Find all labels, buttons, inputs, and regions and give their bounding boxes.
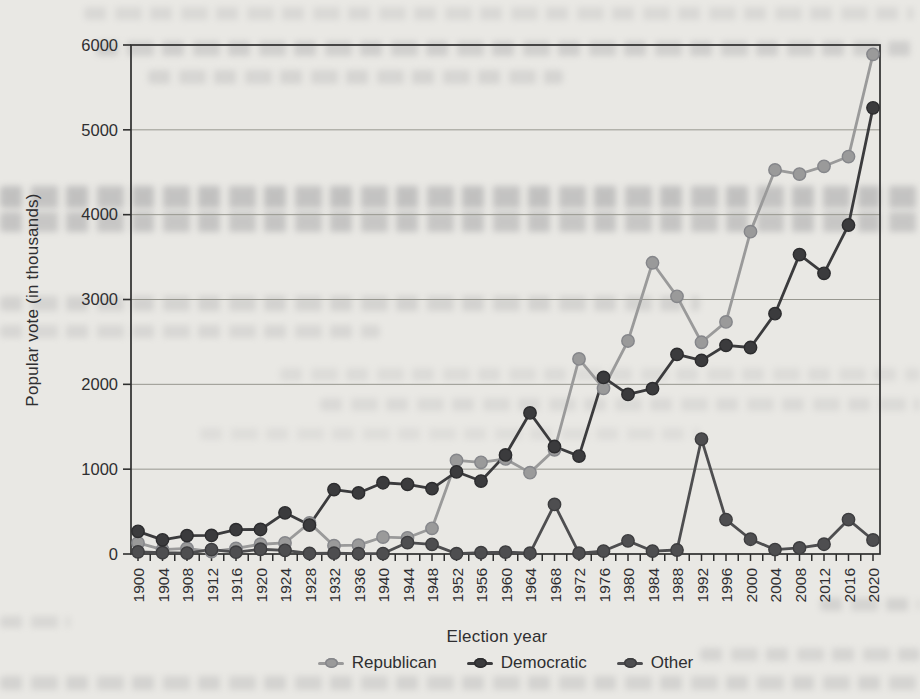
data-point <box>377 477 389 489</box>
page-bleedthrough <box>0 676 920 690</box>
svg-text:4000: 4000 <box>81 205 118 223</box>
svg-text:1968: 1968 <box>547 568 564 602</box>
data-point <box>744 341 756 353</box>
data-point <box>475 456 487 468</box>
svg-text:1948: 1948 <box>424 568 441 602</box>
data-point <box>401 478 413 490</box>
data-point <box>622 335 634 347</box>
svg-text:1980: 1980 <box>620 568 637 603</box>
data-point <box>720 513 732 525</box>
data-point <box>671 348 683 360</box>
data-point <box>450 547 462 559</box>
data-point <box>793 168 805 180</box>
data-point <box>254 543 266 555</box>
data-point <box>769 307 781 319</box>
data-point <box>475 475 487 487</box>
svg-text:1900: 1900 <box>130 568 147 603</box>
chart-legend: Republican Democratic Other <box>131 653 880 673</box>
data-point <box>450 454 462 466</box>
x-axis-title: Election year <box>447 627 548 647</box>
data-point <box>303 519 315 531</box>
data-point <box>401 536 413 548</box>
data-point <box>524 547 536 559</box>
svg-text:2000: 2000 <box>743 568 760 603</box>
svg-text:1964: 1964 <box>522 568 539 603</box>
data-point <box>646 257 658 269</box>
svg-text:2008: 2008 <box>792 568 809 602</box>
data-point <box>744 533 756 545</box>
svg-text:1940: 1940 <box>375 568 392 603</box>
data-point <box>475 547 487 559</box>
scanned-book-page: 0100020003000400050006000190019041908191… <box>0 0 920 699</box>
svg-text:1956: 1956 <box>473 568 490 602</box>
data-point <box>156 547 168 559</box>
data-point <box>205 529 217 541</box>
data-point <box>156 534 168 546</box>
gridlines <box>131 130 880 469</box>
data-point <box>573 353 585 365</box>
legend-item-other: Other <box>617 653 694 673</box>
data-point <box>695 433 707 445</box>
data-point <box>793 248 805 260</box>
data-point <box>622 535 634 547</box>
svg-text:0: 0 <box>109 545 118 563</box>
y-tick-labels: 0100020003000400050006000 <box>81 36 118 563</box>
series-points-republican <box>132 48 879 558</box>
data-point <box>132 546 144 558</box>
data-point <box>328 483 340 495</box>
legend-label-republican: Republican <box>352 653 437 673</box>
data-point <box>279 507 291 519</box>
data-point <box>303 547 315 559</box>
data-point <box>867 102 879 114</box>
data-point <box>205 543 217 555</box>
data-point <box>328 547 340 559</box>
data-point <box>818 538 830 550</box>
y-axis-ticks <box>123 45 131 554</box>
data-point <box>597 545 609 557</box>
data-point <box>720 316 732 328</box>
data-point <box>352 487 364 499</box>
svg-text:1936: 1936 <box>351 568 368 602</box>
data-point <box>646 545 658 557</box>
data-point <box>548 498 560 510</box>
svg-text:1932: 1932 <box>326 568 343 602</box>
data-point <box>842 513 854 525</box>
data-point <box>867 48 879 60</box>
data-point <box>132 525 144 537</box>
svg-text:5000: 5000 <box>81 121 118 139</box>
data-point <box>695 336 707 348</box>
data-point <box>352 547 364 559</box>
svg-text:1924: 1924 <box>277 568 294 603</box>
data-point <box>426 482 438 494</box>
svg-text:2016: 2016 <box>841 568 858 602</box>
democratic-marker-icon <box>467 657 493 669</box>
series-line-democratic <box>138 108 873 540</box>
svg-text:1928: 1928 <box>302 568 319 602</box>
data-point <box>450 466 462 478</box>
data-point <box>254 523 266 535</box>
data-point <box>377 547 389 559</box>
other-marker-icon <box>617 657 643 669</box>
data-point <box>646 382 658 394</box>
data-point <box>744 225 756 237</box>
svg-text:1972: 1972 <box>571 568 588 602</box>
data-point <box>720 339 732 351</box>
data-point <box>279 544 291 556</box>
data-point <box>695 354 707 366</box>
svg-text:1916: 1916 <box>228 568 245 602</box>
data-point <box>622 388 634 400</box>
legend-item-republican: Republican <box>318 653 437 673</box>
svg-text:1952: 1952 <box>449 568 466 602</box>
data-point <box>181 529 193 541</box>
data-point <box>426 538 438 550</box>
data-point <box>573 547 585 559</box>
svg-text:2020: 2020 <box>865 568 882 603</box>
legend-label-other: Other <box>651 653 694 673</box>
svg-text:1904: 1904 <box>155 568 172 603</box>
svg-text:1996: 1996 <box>718 568 735 602</box>
data-point <box>769 164 781 176</box>
data-point <box>524 407 536 419</box>
data-point <box>818 267 830 279</box>
svg-text:2000: 2000 <box>81 375 118 393</box>
data-point <box>818 160 830 172</box>
